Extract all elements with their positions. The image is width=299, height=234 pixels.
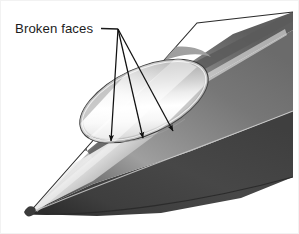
callout-label: Broken faces bbox=[15, 21, 93, 36]
callout-leader-line bbox=[101, 29, 118, 30]
cone-tip bbox=[24, 206, 36, 216]
nose-cone-illustration: Broken faces bbox=[1, 1, 299, 234]
figure-container: Broken faces bbox=[0, 0, 299, 234]
